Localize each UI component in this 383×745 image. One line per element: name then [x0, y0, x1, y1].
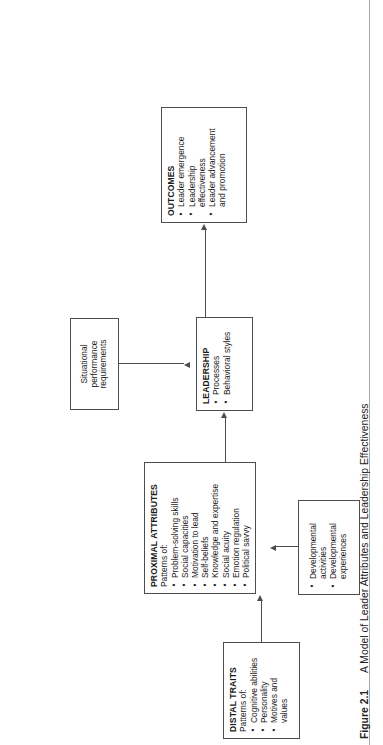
box-proximal-attributes-title: PROXIMAL ATTRIBUTES — [150, 469, 160, 587]
list-item-continuation: and promotion — [218, 114, 228, 216]
arrowhead-leadership-to-outcomes-icon — [201, 224, 207, 230]
box-outcomes-title: OUTCOMES — [167, 114, 177, 216]
list-item: Behavioral styles — [223, 324, 233, 404]
box-distal-traits: DISTAL TRAITS Patterns of: Cognitive abi… — [223, 642, 300, 739]
rotated-figure-container: DISTAL TRAITS Patterns of: Cognitive abi… — [0, 0, 383, 745]
box-situational-performance-requirements: Situational performance requirements — [70, 318, 119, 410]
box-distal-traits-list: Cognitive abilities Personality Motives … — [250, 649, 290, 732]
box-leadership-title: LEADERSHIP — [202, 324, 212, 404]
list-item: Developmental — [309, 523, 319, 588]
box-leadership: LEADERSHIP Processes Behavioral styles — [196, 317, 253, 411]
box-situational-line-3: requirements — [99, 340, 109, 389]
list-item: Social acuity — [222, 469, 232, 587]
arrowhead-distal-to-proximal-icon — [257, 595, 263, 601]
box-distal-traits-title: DISTAL TRAITS — [229, 649, 239, 732]
list-item: Cognitive abilities — [250, 649, 260, 732]
connector-situational-to-leadership — [119, 364, 184, 365]
list-item-continuation: experiences — [339, 523, 349, 588]
connector-distal-to-proximal — [261, 600, 262, 642]
list-item: Leadership — [188, 114, 198, 216]
figure-number: Figure 2.1 — [359, 690, 370, 739]
list-item: Leader emergence — [177, 114, 187, 216]
box-proximal-attributes-subtitle: Patterns of: — [160, 469, 170, 587]
box-outcomes: OUTCOMES Leader emergence Leadership eff… — [161, 107, 247, 223]
list-item: Political savvy — [242, 469, 252, 587]
figure-caption: Figure 2.1 A Model of Leader Attributes … — [359, 403, 370, 739]
list-item-continuation: effectiveness — [198, 114, 208, 216]
book-page: DISTAL TRAITS Patterns of: Cognitive abi… — [0, 0, 383, 745]
connector-developmental-to-proximal — [276, 547, 298, 548]
box-proximal-attributes: PROXIMAL ATTRIBUTES Patterns of: Problem… — [144, 462, 256, 594]
box-distal-traits-subtitle: Patterns of: — [239, 649, 249, 732]
box-developmental-list: Developmental activities Developmental e… — [309, 523, 350, 588]
list-item: Problem-solving skills — [171, 469, 181, 587]
arrowhead-developmental-to-proximal-icon — [270, 545, 276, 551]
box-situational-text-block: Situational performance requirements — [80, 340, 109, 389]
box-proximal-attributes-list: Problem-solving skills Social capacities… — [171, 469, 252, 587]
connector-proximal-to-leadership — [225, 417, 226, 462]
box-outcomes-list: Leader emergence Leadership effectivenes… — [177, 114, 227, 216]
box-developmental: Developmental activities Developmental e… — [298, 500, 360, 595]
box-leadership-list: Processes Behavioral styles — [212, 324, 232, 404]
arrowhead-situational-to-leadership-icon — [184, 362, 190, 368]
connector-leadership-to-outcomes — [205, 229, 206, 317]
figure-canvas: DISTAL TRAITS Patterns of: Cognitive abi… — [0, 0, 383, 745]
list-item-continuation: values — [280, 649, 290, 732]
figure-caption-text: A Model of Leader Attributes and Leaders… — [359, 403, 370, 673]
list-item: Processes — [212, 324, 222, 404]
arrowhead-proximal-to-leadership-icon — [221, 412, 227, 418]
list-item: Knowledge and expertise — [211, 469, 221, 587]
list-item: Emotion regulation — [232, 469, 242, 587]
